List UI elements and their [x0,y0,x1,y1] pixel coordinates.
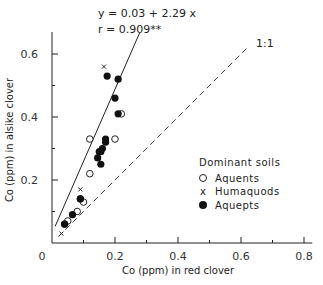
point-humaquods [102,65,106,69]
x-mark-icon: x [200,186,206,197]
point-aquents [112,136,119,143]
point-aquepts [61,221,68,228]
point-aquepts [94,154,101,161]
filled-circle-icon [199,201,207,209]
point-aquepts [97,161,104,168]
legend-label-aquents: Aquents [215,173,259,184]
legend-title: Dominant soils [199,157,280,168]
scatter-chart: y = 0.03 + 2.29 x r = 0.909** 00.20.40.6… [0,0,323,285]
point-aquepts [111,95,118,102]
x-tick-label: 0 [39,250,46,263]
point-humaquods [59,232,63,236]
tick-labels: 00.20.40.60.80.20.40.6 [21,48,313,263]
point-aquepts [115,76,122,83]
point-aquents [87,170,94,177]
point-aquents [87,136,94,143]
legend: Dominant soils Aquents x Humaquods Aquep… [199,157,280,211]
point-aquepts [104,72,111,79]
legend-label-humaquods: Humaquods [215,186,280,197]
y-axis-title: Co (ppm) in alsike clover [4,77,15,202]
regression-equation: y = 0.03 + 2.29 x [98,7,196,20]
x-tick-label: 0.4 [169,250,187,263]
y-tick-label: 0.4 [21,111,39,124]
point-aquepts [77,195,84,202]
correlation-coefficient: r = 0.909** [98,23,162,36]
x-axis-title: Co (ppm) in red clover [122,265,235,276]
y-tick-label: 0.6 [21,48,39,61]
x-tick-label: 0.8 [295,250,313,263]
point-humaquods [78,187,82,191]
open-circle-icon [200,175,207,182]
y-tick-label: 0.2 [21,174,39,187]
x-tick-label: 0.6 [232,250,250,263]
point-aquepts [102,139,109,146]
point-aquepts [69,211,76,218]
point-aquepts [115,110,122,117]
point-aquepts [96,148,103,155]
x-tick-label: 0.2 [106,250,124,263]
identity-line-label: 1:1 [256,37,274,50]
legend-label-aquepts: Aquepts [215,200,259,211]
